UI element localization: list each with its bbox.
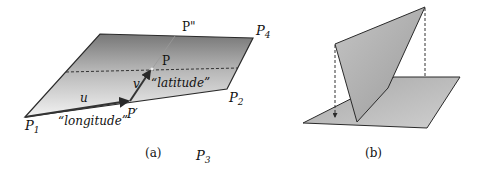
label-p4: P4 (255, 23, 271, 40)
figure-b: (b) (303, 7, 460, 160)
figure-canvas: P" P4 P v “latitude” P2 u P′ P1 “longitu… (0, 0, 480, 172)
label-p3: P3 (195, 148, 211, 165)
label-p-double-prime: P" (182, 20, 196, 34)
label-u: u (80, 91, 88, 105)
figure-a: P" P4 P v “latitude” P2 u P′ P1 “longitu… (24, 20, 271, 165)
caption-b: (b) (365, 146, 382, 160)
label-longitude: “longitude” (58, 114, 128, 128)
label-v: v (133, 77, 140, 91)
point-p (150, 67, 153, 70)
caption-a: (a) (145, 146, 162, 160)
label-latitude: “latitude” (151, 76, 210, 90)
parametric-plane (25, 34, 253, 117)
label-p: P (162, 54, 170, 68)
label-p1: P1 (24, 118, 39, 135)
label-p2: P2 (228, 90, 244, 107)
